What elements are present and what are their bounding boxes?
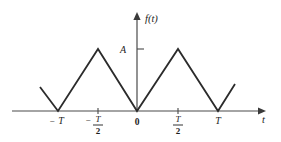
x-axis-label: t (262, 114, 266, 125)
x-tick-label-t: T (215, 115, 222, 126)
triangular-wave-figure: f(t) t A 0 − T − T 2 T 2 T (0, 0, 281, 142)
y-axis-label-group: f(t) (145, 13, 158, 25)
y-axis (133, 12, 140, 111)
t-over-2-numerator: T (175, 114, 181, 124)
t-over-2-denominator: 2 (176, 126, 181, 136)
x-tick-label-t-over-2: T 2 (173, 114, 183, 136)
neg-t-minus-sign: − (49, 116, 54, 126)
y-axis-label: f(t) (145, 13, 158, 25)
y-axis-arrow-icon (133, 12, 140, 20)
x-tick-label-neg-t-over-2: − T 2 (85, 114, 103, 136)
waveform-chart-svg: f(t) t A 0 − T − T 2 T 2 T (0, 0, 281, 142)
neg-t-over-2-numerator: T (95, 114, 101, 124)
x-tick-label-origin: 0 (135, 117, 140, 127)
x-tick-label-neg-t: − T (49, 115, 65, 126)
amplitude-label: A (119, 44, 127, 55)
neg-t-letter: T (58, 115, 65, 126)
neg-t-over-2-denominator: 2 (96, 126, 101, 136)
neg-t-over-2-minus-sign: − (85, 115, 90, 125)
